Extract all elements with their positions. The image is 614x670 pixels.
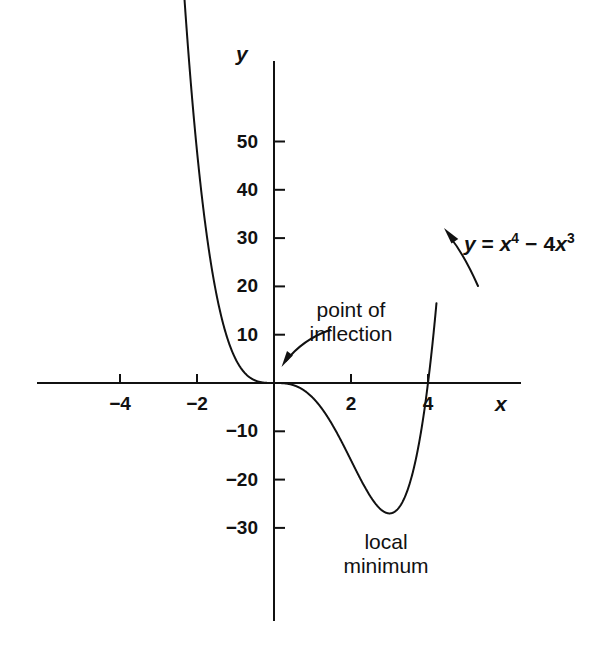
equation-arrow-head bbox=[444, 228, 458, 243]
y-tick-label-10: 10 bbox=[180, 324, 258, 345]
plot-canvas bbox=[0, 0, 614, 670]
x-tick-label-4: 4 bbox=[423, 393, 434, 414]
y-tick-label--20: −20 bbox=[180, 469, 258, 490]
y-axis-name-label: y bbox=[236, 42, 248, 66]
annotation-local-minimum-line1: local bbox=[343, 530, 428, 554]
equation-term1-base: x bbox=[500, 232, 512, 255]
annotation-local-minimum: local minimum bbox=[343, 530, 428, 577]
y-tick-label-20: 20 bbox=[180, 276, 258, 297]
annotation-curve-equation: y = x4 − 4x3 bbox=[464, 232, 575, 256]
y-tick-label-50: 50 bbox=[180, 131, 258, 152]
annotation-point-of-inflection: point of inflection bbox=[310, 298, 393, 345]
equation-minus-sign: − bbox=[525, 232, 538, 255]
y-tick-label--10: −10 bbox=[180, 421, 258, 442]
x-tick-label--2: −2 bbox=[186, 393, 208, 414]
annotation-local-minimum-line2: minimum bbox=[343, 554, 428, 578]
equation-equals: = bbox=[482, 232, 494, 255]
axes-group bbox=[38, 62, 520, 620]
inflection-arrow-head bbox=[282, 351, 293, 367]
x-tick-label-2: 2 bbox=[346, 393, 357, 414]
y-tick-label-30: 30 bbox=[180, 227, 258, 248]
equation-term1-exponent: 4 bbox=[511, 230, 519, 246]
equation-lhs: y bbox=[464, 232, 476, 255]
y-tick-label--30: −30 bbox=[180, 517, 258, 538]
equation-term2-exponent: 3 bbox=[567, 230, 575, 246]
y-tick-label-40: 40 bbox=[180, 179, 258, 200]
function-plot-figure: y x 5040302010−10−20−30 −4−224 point of … bbox=[0, 0, 614, 670]
x-axis-name-label: x bbox=[495, 392, 507, 416]
x-tick-label--4: −4 bbox=[109, 393, 131, 414]
equation-term2-base: x bbox=[555, 232, 567, 255]
annotation-point-of-inflection-line2: inflection bbox=[310, 322, 393, 346]
equation-term2-coefficient: 4 bbox=[544, 232, 556, 255]
annotation-point-of-inflection-line1: point of bbox=[310, 298, 393, 322]
